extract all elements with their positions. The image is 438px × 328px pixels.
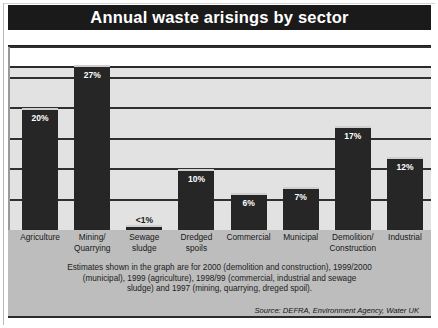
bar-value-label: 7% <box>283 192 319 202</box>
plot-area: 20%27%<1%10%6%7%17%12% <box>8 47 431 230</box>
chart-source: Source: DEFRA, Environment Agency, Water… <box>255 306 419 315</box>
chart-title-bar: Annual waste arisings by sector <box>8 5 431 30</box>
bar-value-label: <1% <box>126 215 162 225</box>
bar: 12% <box>387 157 423 230</box>
x-axis-labels: AgricultureMining/QuarryingSewagesludgeD… <box>8 230 431 262</box>
chart-footnote: Estimates shown in the graph are for 200… <box>24 263 415 295</box>
footnote-line: Estimates shown in the graph are for 200… <box>67 263 372 272</box>
footnote-line: sludge) and 1997 (mining, quarrying, dre… <box>127 284 312 293</box>
x-axis-label: Industrial <box>379 232 431 243</box>
x-axis-label: Agriculture <box>14 232 66 243</box>
bar-value-label: 17% <box>335 131 371 141</box>
x-axis-label: Dredgedspoils <box>170 232 222 253</box>
bar: 7% <box>283 187 319 230</box>
bar: 20% <box>22 108 58 230</box>
y-axis-spine <box>8 47 10 230</box>
bar-value-label: 12% <box>387 162 423 172</box>
bar: 6% <box>231 193 267 230</box>
x-axis-label: Commercial <box>223 232 275 243</box>
bar: <1% <box>126 225 162 230</box>
figure-top-rule <box>3 3 435 4</box>
chart-title: Annual waste arisings by sector <box>90 8 348 27</box>
title-underband <box>8 30 431 47</box>
x-axis-label: Demolition/Construction <box>327 232 379 253</box>
bar: 17% <box>335 126 371 230</box>
figure-left-rule <box>3 3 4 325</box>
bar-value-label: 20% <box>22 113 58 123</box>
card-bottom-rule <box>8 316 431 318</box>
bar-value-label: 6% <box>231 198 267 208</box>
x-axis-label: Sewagesludge <box>118 232 170 253</box>
footnote-line: (municipal), 1999 (agriculture), 1998/99… <box>83 274 357 283</box>
waste-arisings-figure: Annual waste arisings by sector 20%27%<1… <box>0 0 438 328</box>
x-axis-label: Mining/Quarrying <box>66 232 118 253</box>
x-axis-label: Municipal <box>275 232 327 243</box>
bar: 27% <box>74 65 110 230</box>
chart-card: Annual waste arisings by sector 20%27%<1… <box>8 5 431 318</box>
bar: 10% <box>178 169 214 230</box>
bar-series: 20%27%<1%10%6%7%17%12% <box>8 47 431 230</box>
bar-value-label: 10% <box>178 174 214 184</box>
bar-value-label: 27% <box>74 70 110 80</box>
